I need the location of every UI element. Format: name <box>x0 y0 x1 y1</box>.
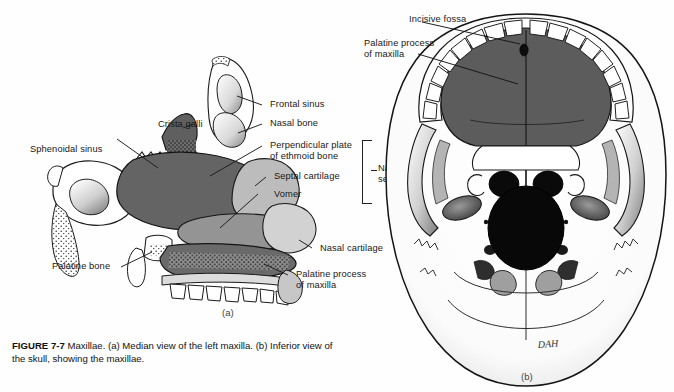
frontal-bone-region <box>208 56 253 147</box>
artist-signature: DAH <box>536 338 559 351</box>
label-crista-galli: Crista galli <box>158 119 203 130</box>
label-nasal-cartilage: Nasal cartilage <box>320 243 383 254</box>
label-incisive-fossa: Incisive fossa <box>409 14 466 25</box>
figure-container: Crista galli Sphenoidal sinus Palatine b… <box>0 0 674 392</box>
foramen-magnum <box>488 186 564 270</box>
label-perpendicular-plate: Perpendicular plate of ethmoid bone <box>270 140 352 163</box>
panel-a-letter: (a) <box>222 307 234 318</box>
nasal-septum-bracket-tick <box>371 170 377 171</box>
label-palatine-process-a: Palatine process of maxilla <box>296 269 366 292</box>
panel-b-inferior-view: DAH Incisive fossa Palatine process of m… <box>378 0 674 392</box>
figure-caption: FIGURE 7-7 Maxillae. (a) Median view of … <box>12 339 342 365</box>
incisive-fossa-opening <box>520 44 528 56</box>
panel-b-letter: (b) <box>521 371 533 382</box>
label-vomer: Vomer <box>274 189 301 200</box>
label-nasal-bone: Nasal bone <box>270 118 318 129</box>
label-palatine-bone: Palatine bone <box>52 261 110 272</box>
label-palatine-process-b: Palatine process of maxilla <box>364 38 434 61</box>
nasal-septum-bracket <box>362 140 372 204</box>
label-sphenoidal-sinus: Sphenoidal sinus <box>30 144 102 155</box>
figure-number: FIGURE 7-7 <box>12 340 65 351</box>
teeth-row <box>162 273 288 305</box>
label-frontal-sinus: Frontal sinus <box>270 99 325 110</box>
label-septal-cartilage: Septal cartilage <box>274 171 340 182</box>
panel-a-median-view: Crista galli Sphenoidal sinus Palatine b… <box>0 0 400 318</box>
